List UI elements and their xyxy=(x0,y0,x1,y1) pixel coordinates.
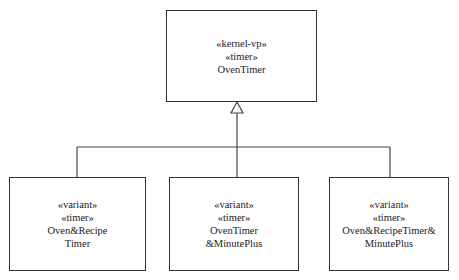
stereotype-timer: «timer» xyxy=(373,211,406,224)
class-name-line-1: Oven&Recipe xyxy=(47,224,107,237)
class-name-line-2: MinutePlus xyxy=(365,237,413,250)
stereotype-timer: «timer» xyxy=(225,50,258,63)
generalization-arrowhead-icon xyxy=(231,102,243,113)
stereotype-kernel-vp: «kernel-vp» xyxy=(216,37,267,50)
stereotype-timer: «timer» xyxy=(61,211,94,224)
class-oventimer: «kernel-vp» «timer» OvenTimer xyxy=(166,10,317,102)
class-name-line-1: OvenTimer xyxy=(210,224,258,237)
class-oven-recipe-timer: «variant» «timer» Oven&Recipe Timer xyxy=(9,177,146,271)
class-name-line-1: Oven&RecipeTimer& xyxy=(342,224,436,237)
class-name-line-2: &MinutePlus xyxy=(206,237,263,250)
stereotype-timer: «timer» xyxy=(218,211,251,224)
class-name: OvenTimer xyxy=(217,63,265,76)
class-oven-recipetimer-minuteplus: «variant» «timer» Oven&RecipeTimer& Minu… xyxy=(329,177,449,271)
stereotype-variant: «variant» xyxy=(369,198,409,211)
stereotype-variant: «variant» xyxy=(214,198,254,211)
class-name-line-2: Timer xyxy=(65,237,90,250)
class-oventimer-minuteplus: «variant» «timer» OvenTimer &MinutePlus xyxy=(169,177,299,271)
stereotype-variant: «variant» xyxy=(58,198,98,211)
